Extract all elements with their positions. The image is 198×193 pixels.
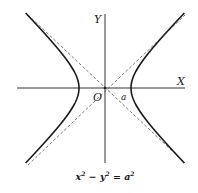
origin-point xyxy=(104,87,107,90)
equation-caption: x2 − y2 = a2 xyxy=(74,170,134,182)
origin-label: O xyxy=(93,91,102,104)
vertex-distance-label: a xyxy=(121,92,126,102)
eq-equals: = xyxy=(110,171,125,182)
x-axis-label: X xyxy=(176,75,186,88)
eq-minus: − xyxy=(85,171,100,182)
y-axis-label: Y xyxy=(94,13,103,26)
eq-exp3: 2 xyxy=(129,170,134,177)
hyperbola-diagram: Y X O a x2 − y2 = a2 xyxy=(0,0,198,193)
